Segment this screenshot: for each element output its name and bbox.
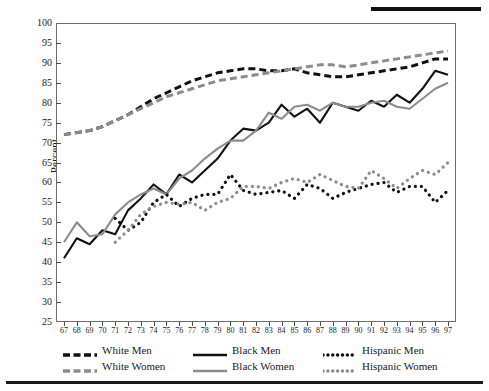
x-axis-tick-label: 83	[265, 327, 273, 335]
legend-swatch-icon	[323, 346, 357, 356]
y-axis-tick-mark	[56, 302, 61, 303]
chart-legend: White MenBlack MenHispanic MenWhite Wome…	[63, 343, 453, 375]
x-axis-tick-label: 79	[214, 327, 222, 335]
y-axis-tick-mark	[56, 63, 61, 64]
legend-label: Hispanic Women	[362, 361, 438, 372]
x-axis-tick-label: 90	[354, 327, 362, 335]
x-axis-tick-label: 97	[444, 327, 452, 335]
legend-label: White Women	[102, 361, 165, 372]
x-axis-tick-label: 77	[188, 327, 196, 335]
figure-container: 253035404550556065707580859095100 Percen…	[0, 0, 489, 391]
legend-swatch-icon	[193, 346, 227, 356]
legend-label: Black Women	[232, 361, 294, 372]
x-axis-tick-label: 87	[316, 327, 324, 335]
y-axis-tick-label: 25	[42, 317, 52, 327]
x-axis-tick-label: 72	[124, 327, 132, 335]
legend-swatch-icon	[323, 362, 357, 372]
legend-swatch-icon	[193, 362, 227, 372]
x-axis-tick-label: 84	[278, 327, 286, 335]
bottom-rule-divider	[6, 381, 483, 384]
top-rule-divider	[371, 7, 481, 11]
series-line	[64, 51, 448, 135]
y-axis-tick-mark	[56, 182, 61, 183]
x-axis-tick-label: 88	[329, 327, 337, 335]
chart-lines-svg	[56, 23, 456, 322]
y-axis-tick-label: 45	[42, 237, 52, 247]
x-axis-tick-label: 75	[162, 327, 170, 335]
y-axis-tick-label: 85	[42, 78, 52, 88]
y-axis-tick-label: 40	[42, 257, 52, 267]
legend-row: White WomenBlack WomenHispanic Women	[63, 359, 453, 374]
legend-item[interactable]: Hispanic Men	[323, 343, 453, 358]
legend-item[interactable]: Black Men	[193, 343, 323, 358]
x-axis-tick-label: 82	[252, 327, 260, 335]
y-axis-tick-label: 35	[42, 277, 52, 287]
x-axis-tick-label: 91	[367, 327, 375, 335]
y-axis-tick-mark	[56, 242, 61, 243]
y-axis-tick-mark	[56, 222, 61, 223]
x-axis-tick-label: 69	[86, 327, 94, 335]
series-line	[64, 59, 448, 135]
series-line	[115, 163, 448, 243]
x-axis-tick-label: 68	[73, 327, 81, 335]
y-axis-tick-mark	[56, 123, 61, 124]
legend-label: Black Men	[232, 345, 281, 356]
x-axis-tick-label: 76	[175, 327, 183, 335]
x-axis-tick-label: 94	[406, 327, 414, 335]
x-axis-tick-label: 80	[226, 327, 234, 335]
y-axis-tick-mark	[56, 103, 61, 104]
legend-row: White MenBlack MenHispanic Men	[63, 343, 453, 358]
x-axis-tick-label: 71	[111, 327, 119, 335]
x-axis-tick-label: 93	[393, 327, 401, 335]
y-axis-tick-label: 30	[42, 297, 52, 307]
y-axis-tick-mark	[56, 262, 61, 263]
x-axis-tick-label: 78	[201, 327, 209, 335]
x-axis-tick-label: 96	[431, 327, 439, 335]
y-axis-tick-mark	[56, 202, 61, 203]
legend-item[interactable]: Black Women	[193, 359, 323, 374]
series-line	[64, 83, 448, 242]
y-axis-tick-labels: 253035404550556065707580859095100	[0, 23, 52, 322]
x-axis-tick-label: 67	[60, 327, 68, 335]
y-axis-tick-mark	[56, 282, 61, 283]
x-axis-tick-label: 95	[418, 327, 426, 335]
plot-area	[56, 23, 456, 322]
legend-label: Hispanic Men	[362, 345, 424, 356]
x-axis-tick-label: 92	[380, 327, 388, 335]
legend-item[interactable]: White Men	[63, 343, 193, 358]
y-axis-tick-label: 90	[42, 58, 52, 68]
x-axis-tick-label: 73	[137, 327, 145, 335]
series-line	[64, 71, 448, 258]
y-axis-tick-mark	[56, 143, 61, 144]
x-axis-tick-label: 74	[150, 327, 158, 335]
x-axis-tick-label: 81	[239, 327, 247, 335]
x-axis-tick-labels: 6768697071727374757677787980818283848586…	[56, 322, 456, 342]
y-axis-tick-mark	[56, 163, 61, 164]
y-axis-tick-mark	[56, 83, 61, 84]
y-axis-tick-label: 100	[37, 18, 52, 28]
y-axis-tick-label: 50	[42, 217, 52, 227]
x-axis-tick-label: 89	[342, 327, 350, 335]
x-axis-tick-label: 70	[98, 327, 106, 335]
legend-swatch-icon	[63, 346, 97, 356]
legend-label: White Men	[102, 345, 152, 356]
legend-item[interactable]: Hispanic Women	[323, 359, 453, 374]
legend-swatch-icon	[63, 362, 97, 372]
x-axis-tick-label: 86	[303, 327, 311, 335]
legend-item[interactable]: White Women	[63, 359, 193, 374]
x-axis-tick-label: 85	[290, 327, 298, 335]
y-axis-tick-label: 95	[42, 38, 52, 48]
y-axis-tick-mark	[56, 43, 61, 44]
